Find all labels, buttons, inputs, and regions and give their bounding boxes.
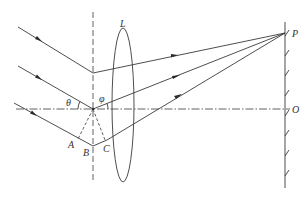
screen-hatching <box>285 30 289 176</box>
label-c: C <box>103 143 110 154</box>
lens <box>112 28 134 182</box>
arrow-icon <box>35 75 42 81</box>
diffracted-ray-top <box>93 33 285 73</box>
diffraction-diagram: L P O θ φ A B C <box>0 0 307 201</box>
perpendicular-c <box>93 109 105 140</box>
incident-ray-top <box>18 27 93 73</box>
perpendicular-a <box>78 109 93 139</box>
label-lens: L <box>119 18 126 29</box>
incident-ray-middle <box>18 66 93 109</box>
label-phi: φ <box>99 93 105 104</box>
angle-theta-arc <box>78 102 80 110</box>
label-p: P <box>291 28 298 39</box>
diffracted-ray-middle <box>93 33 285 109</box>
label-a: A <box>67 139 75 150</box>
angle-phi-arc <box>107 104 108 110</box>
incident-ray-bottom <box>14 103 93 146</box>
label-b: B <box>83 147 89 158</box>
label-theta: θ <box>66 97 71 108</box>
diagram-svg: L P O θ φ A B C <box>0 0 307 201</box>
arrow-icon <box>30 111 37 117</box>
arrow-icon <box>172 75 180 79</box>
arrow-icon <box>174 94 182 99</box>
grating-point <box>92 108 94 110</box>
arrow-icon <box>35 36 42 42</box>
diffracted-ray-bottom <box>93 33 285 146</box>
label-o: O <box>292 104 299 115</box>
